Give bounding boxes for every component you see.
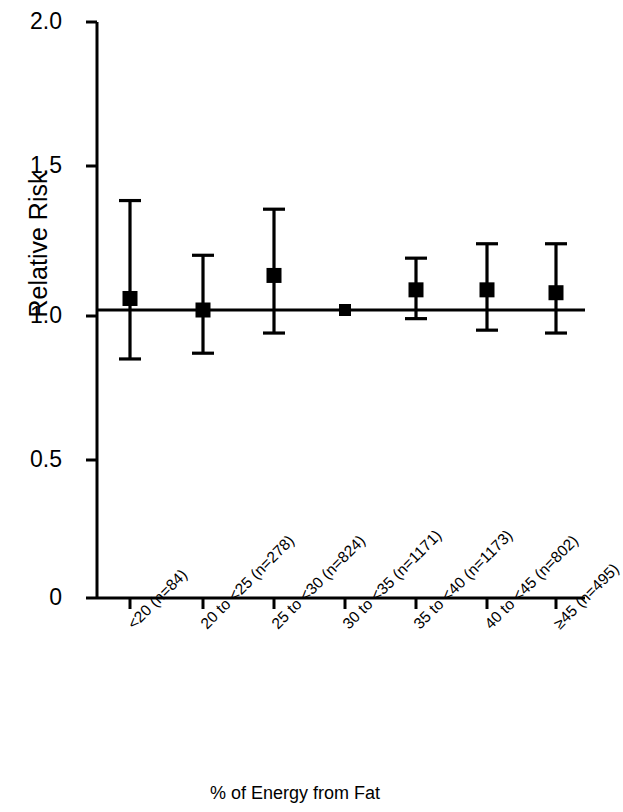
data-point (339, 304, 351, 316)
data-series (119, 201, 567, 359)
data-point (119, 201, 141, 359)
marker-square (123, 291, 138, 306)
data-point (192, 255, 214, 353)
marker-square (196, 303, 211, 318)
marker-square (480, 282, 495, 297)
data-point (545, 244, 567, 333)
x-axis-title: % of Energy from Fat (0, 783, 590, 804)
data-point (263, 209, 285, 333)
marker-square (549, 285, 564, 300)
marker-square (339, 304, 351, 316)
marker-square (409, 282, 424, 297)
marker-square (267, 268, 282, 283)
data-point (476, 244, 498, 330)
